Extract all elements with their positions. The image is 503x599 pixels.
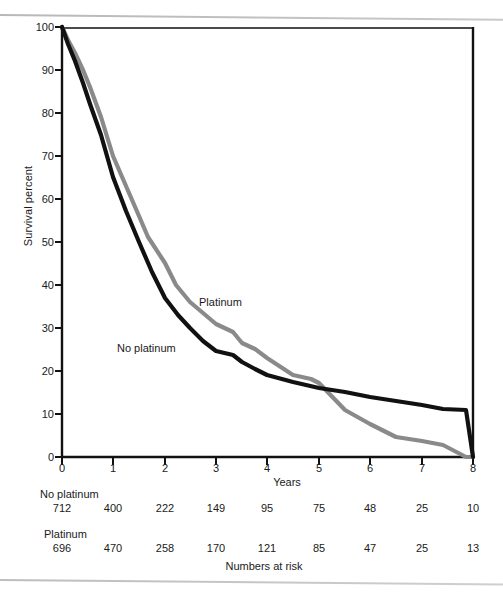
risk-cell: 95 bbox=[247, 502, 287, 514]
y-tick-10: 10 bbox=[24, 408, 54, 420]
y-tick-50: 50 bbox=[24, 236, 54, 248]
x-tick-1: 1 bbox=[103, 462, 123, 474]
x-tick-7: 7 bbox=[412, 462, 432, 474]
x-tick-8: 8 bbox=[463, 462, 483, 474]
risk-group-no-platinum: No platinum 712 400 222 149 95 75 48 25 … bbox=[0, 488, 503, 522]
risk-cell: 170 bbox=[196, 542, 236, 554]
risk-cell: 75 bbox=[299, 502, 339, 514]
risk-cell: 47 bbox=[350, 542, 390, 554]
figure-page: Survival percent Years 100 90 80 70 60 5… bbox=[0, 0, 503, 599]
risk-cell: 696 bbox=[42, 542, 82, 554]
y-tick-80: 80 bbox=[24, 107, 54, 119]
risk-group-platinum: Platinum 696 470 258 170 121 85 47 25 13 bbox=[0, 528, 503, 562]
risk-cell: 13 bbox=[453, 542, 493, 554]
numbers-at-risk-table: No platinum 712 400 222 149 95 75 48 25 … bbox=[0, 488, 503, 562]
y-tick-60: 60 bbox=[24, 193, 54, 205]
numbers-at-risk-caption: Numbers at risk bbox=[184, 560, 344, 572]
risk-row-platinum: 696 470 258 170 121 85 47 25 13 bbox=[0, 542, 503, 558]
risk-cell: 25 bbox=[402, 542, 442, 554]
axis-frame bbox=[62, 27, 473, 457]
chart-canvas bbox=[0, 0, 503, 480]
risk-cell: 121 bbox=[247, 542, 287, 554]
x-tick-5: 5 bbox=[309, 462, 329, 474]
y-tick-90: 90 bbox=[24, 64, 54, 76]
y-tick-20: 20 bbox=[24, 365, 54, 377]
x-tick-6: 6 bbox=[360, 462, 380, 474]
x-tick-3: 3 bbox=[206, 462, 226, 474]
x-tick-0: 0 bbox=[52, 462, 72, 474]
risk-cell: 10 bbox=[453, 502, 493, 514]
risk-cell: 222 bbox=[145, 502, 185, 514]
bottom-divider-rule bbox=[0, 579, 503, 585]
y-tick-0: 0 bbox=[24, 451, 54, 463]
y-tick-70: 70 bbox=[24, 150, 54, 162]
risk-cell: 25 bbox=[402, 502, 442, 514]
risk-cell: 470 bbox=[93, 542, 133, 554]
risk-cell: 258 bbox=[145, 542, 185, 554]
risk-cell: 85 bbox=[299, 542, 339, 554]
curve-no-platinum bbox=[62, 27, 473, 457]
risk-cell: 48 bbox=[350, 502, 390, 514]
curve-platinum bbox=[62, 27, 473, 457]
x-tick-4: 4 bbox=[257, 462, 277, 474]
risk-group-name: No platinum bbox=[40, 488, 99, 500]
risk-row-no-platinum: 712 400 222 149 95 75 48 25 10 bbox=[0, 502, 503, 518]
curve-label-no-platinum: No platinum bbox=[117, 342, 176, 354]
risk-cell: 149 bbox=[196, 502, 236, 514]
x-tick-2: 2 bbox=[155, 462, 175, 474]
risk-group-name: Platinum bbox=[44, 528, 87, 540]
risk-cell: 400 bbox=[93, 502, 133, 514]
y-tick-40: 40 bbox=[24, 279, 54, 291]
y-tick-30: 30 bbox=[24, 322, 54, 334]
risk-cell: 712 bbox=[42, 502, 82, 514]
survival-chart: Survival percent Years 100 90 80 70 60 5… bbox=[0, 0, 503, 480]
y-tick-100: 100 bbox=[24, 21, 54, 33]
curve-label-platinum: Platinum bbox=[199, 296, 242, 308]
x-axis-label: Years bbox=[232, 476, 342, 488]
